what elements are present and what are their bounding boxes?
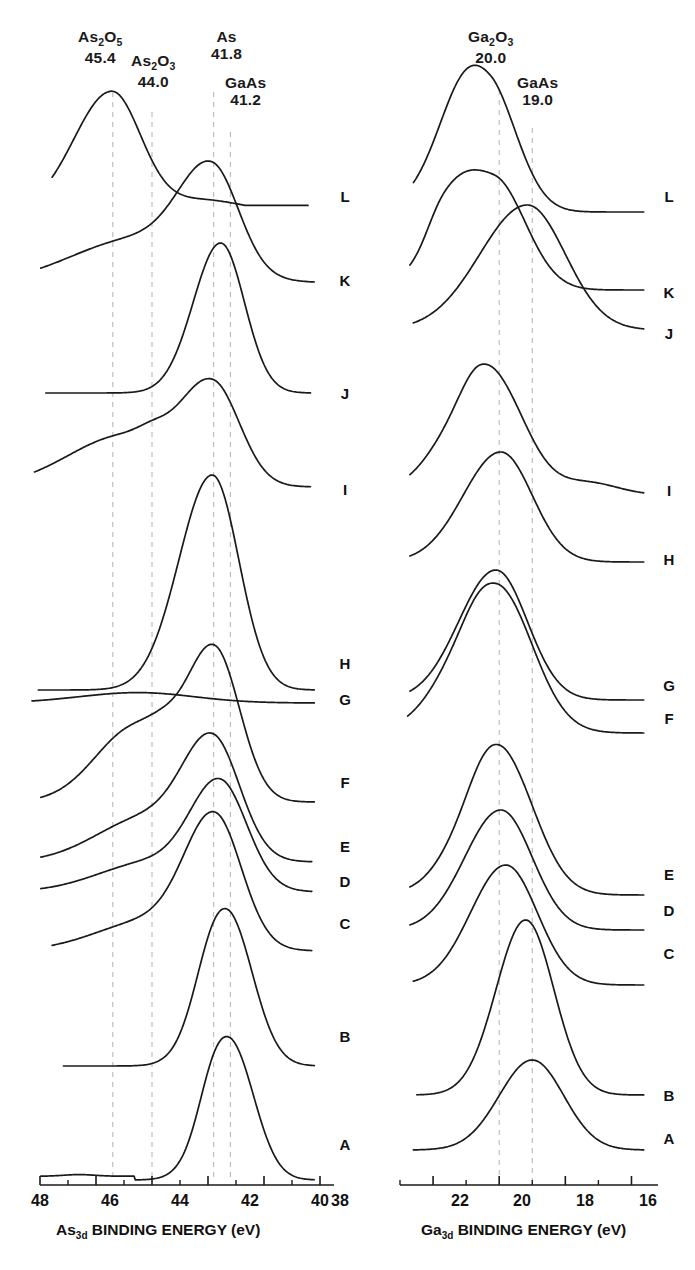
ga3d-curve-label-l: L: [660, 188, 678, 205]
xtick-18: 18: [565, 1192, 605, 1210]
xtick-42: 42: [230, 1192, 270, 1210]
as3d-curve-label-i: I: [336, 481, 354, 498]
ga3d-curve-label-e: E: [660, 866, 678, 883]
ga3d-axis-title-prefix: Ga: [421, 1221, 442, 1238]
xtick-22: 22: [440, 1192, 480, 1210]
marker-gaas-right-species: GaAs: [517, 74, 558, 91]
marker-as2o5: As2O5 45.4: [78, 28, 123, 66]
ga3d-axis-title-sub: 3d: [442, 1230, 454, 1241]
xtick-46: 46: [90, 1192, 130, 1210]
marker-as-species: As: [216, 28, 236, 45]
as3d-curve-label-c: C: [336, 915, 354, 932]
ga3d-spectra-plot: [360, 0, 695, 1270]
marker-ga2o3-species: Ga2O3: [468, 28, 513, 45]
marker-as2o5-value: 45.4: [85, 49, 116, 66]
ga3d-curve-label-g: G: [660, 677, 678, 694]
ga3d-axis-title-rest: BINDING ENERGY (eV): [453, 1221, 626, 1238]
ga3d-curve-label-j: J: [660, 325, 678, 342]
marker-gaas-left-value: 41.2: [230, 91, 261, 108]
ga3d-curve-label-a: A: [660, 1130, 678, 1147]
marker-as-value: 41.8: [211, 45, 242, 62]
as3d-curve-label-j: J: [336, 385, 354, 402]
marker-as2o3-value: 44.0: [138, 73, 169, 90]
xtick-16: 16: [628, 1192, 668, 1210]
ga3d-curve-label-h: H: [660, 551, 678, 568]
marker-as2o5-species: As2O5: [78, 28, 123, 45]
marker-as2o3-species: As2O3: [131, 52, 176, 69]
ga3d-curve-label-k: K: [660, 284, 678, 301]
marker-as: As 41.8: [211, 28, 242, 63]
marker-gaas-right: GaAs 19.0: [517, 74, 558, 109]
as3d-curve-label-f: F: [336, 774, 354, 791]
as3d-curve-label-k: K: [336, 272, 354, 289]
marker-ga2o3: Ga2O3 20.0: [468, 28, 513, 66]
as3d-spectra-plot: [0, 0, 360, 1270]
as3d-curve-label-d: D: [336, 873, 354, 890]
as3d-axis-title: As3d BINDING ENERGY (eV): [56, 1221, 260, 1241]
as3d-curve-label-b: B: [336, 1028, 354, 1045]
xtick-44: 44: [160, 1192, 200, 1210]
xtick-48: 48: [20, 1192, 60, 1210]
xtick-20: 20: [502, 1192, 542, 1210]
ga3d-curve-label-d: D: [660, 902, 678, 919]
marker-gaas-left: GaAs 41.2: [225, 74, 266, 109]
ga3d-axis-title: Ga3d BINDING ENERGY (eV): [421, 1221, 626, 1241]
xtick-38: 38: [320, 1192, 360, 1210]
as3d-curve-label-g: G: [336, 691, 354, 708]
ga3d-curve-label-i: I: [660, 482, 678, 499]
as3d-curve-label-l: L: [336, 188, 354, 205]
marker-gaas-right-value: 19.0: [522, 91, 553, 108]
figure-root: As2O5 45.4 As2O3 44.0 As 41.8 GaAs 41.2 …: [0, 0, 695, 1270]
ga3d-curve-label-b: B: [660, 1087, 678, 1104]
ga3d-curve-label-f: F: [660, 710, 678, 727]
as3d-curve-label-e: E: [336, 838, 354, 855]
as3d-axis-title-sub: 3d: [76, 1230, 88, 1241]
marker-as2o3: As2O3 44.0: [131, 52, 176, 90]
as3d-axis-title-prefix: As: [56, 1221, 76, 1238]
ga3d-curve-label-c: C: [660, 945, 678, 962]
marker-gaas-left-species: GaAs: [225, 74, 266, 91]
marker-ga2o3-value: 20.0: [475, 49, 506, 66]
as3d-curve-label-h: H: [336, 655, 354, 672]
as3d-axis-title-rest: BINDING ENERGY (eV): [88, 1221, 261, 1238]
as3d-curve-label-a: A: [336, 1136, 354, 1153]
